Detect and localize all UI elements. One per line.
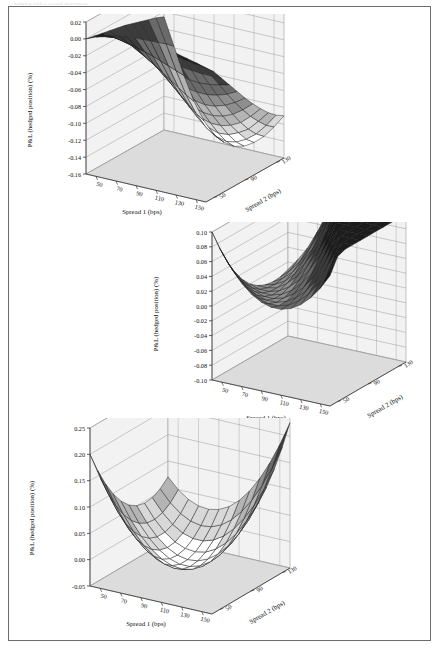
x-tick-label: 50 — [96, 180, 104, 188]
x-tick-label: 150 — [194, 203, 205, 212]
chart-middle-canvas: 0.100.080.060.040.020.00-0.02-0.04-0.06-… — [140, 222, 432, 424]
x-axis-title: Spread 1 (bps) — [122, 208, 162, 216]
x-axis-title: Spread 1 (bps) — [126, 620, 166, 628]
z-tick-label: -0.08 — [68, 103, 81, 110]
z-tick-label: -0.10 — [68, 120, 81, 127]
z-tick-label: -0.06 — [68, 86, 81, 93]
z-axis-ticks: 0.100.080.060.040.020.00-0.02-0.04-0.06-… — [194, 229, 212, 384]
y-axis-title: Spread 2 (bps) — [248, 599, 286, 626]
x-tick-label: 90 — [261, 394, 269, 402]
surface-plot-top: 0.020.00-0.02-0.04-0.06-0.08-0.10-0.12-0… — [14, 14, 314, 224]
x-tick-label: 150 — [318, 407, 329, 416]
z-tick-label: -0.02 — [194, 317, 207, 324]
y-tick-label: 50 — [342, 395, 351, 404]
z-tick-label: 0.08 — [196, 243, 207, 250]
chart-bottom-canvas: 0.250.200.150.100.050.00-0.0550709011013… — [16, 418, 316, 636]
z-tick-label: 0.02 — [70, 19, 81, 26]
z-tick-label: -0.08 — [194, 362, 207, 369]
figure-page: hedging with a second instrument 0.020.0… — [0, 0, 441, 651]
z-tick-label: 0.06 — [196, 258, 207, 265]
x-tick-label: 70 — [116, 184, 124, 192]
x-tick-label: 70 — [241, 390, 249, 398]
z-tick-label: -0.05 — [72, 583, 85, 590]
z-tick-label: -0.14 — [68, 154, 81, 161]
surface-plot-bottom: 0.250.200.150.100.050.00-0.0550709011013… — [16, 418, 316, 636]
x-tick-label: 130 — [180, 610, 191, 619]
x-tick-label: 50 — [222, 386, 230, 394]
z-tick-label: 0.02 — [196, 288, 207, 295]
z-tick-label: 0.15 — [74, 477, 85, 484]
z-tick-label: -0.10 — [194, 377, 207, 384]
x-tick-label: 50 — [100, 592, 108, 600]
z-tick-label: 0.00 — [74, 556, 85, 563]
z-tick-label: 0.10 — [196, 229, 207, 236]
z-tick-label: -0.04 — [194, 332, 207, 339]
y-tick-label: 90 — [372, 377, 381, 386]
y-tick-label: 50 — [218, 191, 227, 200]
chart-top-canvas: 0.020.00-0.02-0.04-0.06-0.08-0.10-0.12-0… — [14, 14, 314, 224]
z-tick-label: 0.00 — [196, 303, 207, 310]
z-tick-label: 0.25 — [74, 425, 85, 432]
z-tick-label: 0.04 — [196, 273, 207, 280]
z-axis-ticks: 0.250.200.150.100.050.00-0.05 — [72, 425, 90, 590]
x-tick-label: 130 — [174, 198, 185, 207]
x-tick-label: 90 — [136, 189, 144, 197]
y-axis-title: Spread 2 (bps) — [244, 187, 282, 214]
y-tick-label: 90 — [255, 584, 264, 593]
z-tick-label: -0.16 — [68, 171, 81, 178]
x-tick-label: 110 — [154, 193, 164, 202]
y-axis-title: Spread 2 (bps) — [366, 393, 404, 420]
x-tick-label: 70 — [120, 596, 128, 604]
x-tick-label: 110 — [160, 605, 170, 614]
z-tick-label: -0.04 — [68, 69, 81, 76]
z-axis-title: P&L (hedged position) (%) — [28, 481, 36, 555]
z-axis-title: P&L (hedged position) (%) — [152, 277, 160, 351]
x-tick-label: 90 — [141, 601, 149, 609]
y-tick-label: 50 — [224, 603, 233, 612]
z-tick-label: 0.00 — [70, 35, 81, 42]
z-tick-label: 0.20 — [74, 451, 85, 458]
z-tick-label: -0.06 — [194, 347, 207, 354]
z-tick-label: 0.05 — [74, 530, 85, 537]
surface-plot-middle: 0.100.080.060.040.020.00-0.02-0.04-0.06-… — [140, 222, 432, 424]
z-axis-title: P&L (hedged position) (%) — [26, 73, 34, 147]
y-tick-label: 90 — [249, 173, 258, 182]
x-tick-label: 110 — [279, 398, 289, 407]
z-tick-label: 0.10 — [74, 504, 85, 511]
z-tick-label: -0.02 — [68, 52, 81, 59]
z-tick-label: -0.12 — [68, 137, 81, 144]
x-tick-label: 150 — [200, 615, 211, 624]
z-axis-ticks: 0.020.00-0.02-0.04-0.06-0.08-0.10-0.12-0… — [68, 19, 86, 178]
x-tick-label: 130 — [299, 403, 310, 412]
